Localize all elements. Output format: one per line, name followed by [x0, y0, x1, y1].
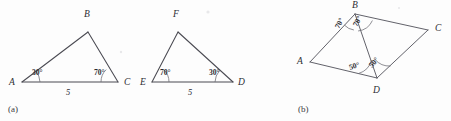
panel-b: A B C D 70° 70° 50° 50° (b) — [296, 0, 442, 114]
segment-ab-quad — [310, 14, 355, 62]
side-label-ed: 5 — [188, 88, 192, 97]
angle-arc-abd — [345, 25, 354, 30]
segment-fd — [178, 32, 233, 82]
vertex-label-e: E — [139, 77, 146, 87]
vertex-label-b: B — [84, 9, 90, 19]
vertex-label-a: A — [8, 77, 15, 87]
quadrilateral-abcd: A B C D 70° 70° 50° 50° — [296, 0, 442, 95]
angle-label-e: 70° — [160, 68, 171, 77]
figure-canvas: A B C 30° 70° 5 E F D 70° 30° 5 — [0, 0, 451, 121]
angle-label-abd: 70° — [333, 16, 346, 30]
triangle-efd: E F D 70° 30° 5 — [139, 9, 245, 97]
vertex-label-c: C — [124, 77, 131, 87]
vertex-label-a-quad: A — [296, 56, 303, 66]
angle-label-adb: 50° — [348, 60, 361, 72]
vertex-label-b-quad: B — [352, 0, 358, 10]
angle-label-c: 70° — [94, 68, 105, 77]
segment-bc-quad — [355, 14, 428, 30]
geometry-figure: A B C 30° 70° 5 E F D 70° 30° 5 — [0, 0, 451, 121]
angle-label-bdc: 50° — [367, 55, 381, 69]
vertex-label-c-quad: C — [435, 23, 442, 33]
side-label-ac: 5 — [66, 88, 70, 97]
vertex-label-d: D — [237, 77, 245, 87]
vertex-label-d-quad: D — [372, 85, 380, 95]
panel-a: A B C 30° 70° 5 E F D 70° 30° 5 — [8, 9, 245, 114]
triangle-abc: A B C 30° 70° 5 — [8, 9, 131, 97]
angle-label-a: 30° — [32, 68, 43, 77]
panel-caption-a: (a) — [8, 104, 18, 114]
scan-artifacts — [120, 7, 400, 53]
vertex-label-f: F — [172, 9, 179, 19]
angle-label-d: 30° — [209, 68, 220, 77]
segment-cd-quad — [377, 30, 428, 78]
panel-caption-b: (b) — [298, 104, 309, 114]
